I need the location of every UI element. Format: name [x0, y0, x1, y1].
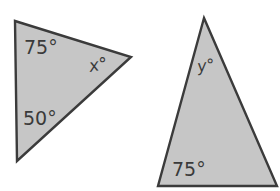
angle-y-right-triangle: y°	[195, 55, 216, 76]
angle-50-left-triangle: 50°	[23, 107, 57, 129]
right-triangle-group: y° 75°	[158, 18, 277, 186]
figure-canvas: 75° 50° x° y° 75°	[0, 0, 280, 191]
angle-75-left-triangle: 75°	[24, 36, 58, 58]
angle-x-left-triangle: x°	[86, 53, 109, 76]
angle-75-right-triangle: 75°	[172, 158, 206, 180]
geometry-figure: 75° 50° x° y° 75°	[0, 0, 280, 191]
left-triangle-group: 75° 50° x°	[15, 21, 131, 161]
